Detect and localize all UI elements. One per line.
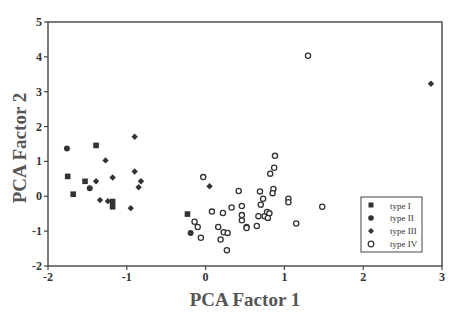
open-circle-point	[220, 210, 225, 215]
y-tick-label: 0	[36, 189, 42, 203]
diamond-point	[102, 157, 108, 163]
square-point	[93, 143, 99, 149]
diamond-point	[97, 197, 103, 203]
y-tick-label: 5	[36, 15, 42, 29]
diamond-point	[128, 205, 134, 211]
y-tick-label: 4	[36, 50, 42, 64]
square-point	[70, 191, 76, 197]
open-circle-point	[239, 213, 244, 218]
x-axis-ticks: -2-10123	[43, 266, 445, 284]
open-circle-point	[305, 53, 310, 58]
square-marker-icon	[369, 203, 374, 208]
filled-circle-marker-icon	[368, 215, 374, 221]
diamond-point	[131, 168, 137, 174]
open-circle-point	[244, 225, 249, 230]
square-point	[110, 204, 116, 210]
open-circle-point	[224, 248, 229, 253]
open-circle-point	[272, 165, 277, 170]
x-tick-label: 2	[360, 270, 366, 284]
filled-circle-point	[87, 185, 93, 191]
open-circle-point	[265, 215, 270, 220]
legend-label: type II	[390, 213, 414, 223]
legend-label: type IV	[390, 239, 418, 249]
y-axis-title: PCA Factor 2	[9, 93, 30, 203]
open-circle-point	[261, 196, 266, 201]
open-circle-point	[201, 175, 206, 180]
legend: type I type II type III type IV	[361, 197, 422, 252]
open-circle-point	[286, 200, 291, 205]
diamond-point	[138, 178, 144, 184]
x-tick-label: 1	[281, 270, 287, 284]
legend-label: type I	[390, 201, 411, 211]
open-circle-point	[236, 188, 241, 193]
open-circle-point	[257, 189, 262, 194]
x-axis-title: PCA Factor 1	[190, 289, 300, 310]
open-circle-point	[216, 224, 221, 229]
diamond-point	[135, 184, 141, 190]
x-tick-label: 3	[439, 270, 445, 284]
y-axis-ticks: -2-1012345	[32, 15, 48, 273]
y-tick-label: 2	[36, 120, 42, 134]
open-circle-point	[218, 237, 223, 242]
diamond-point	[93, 178, 99, 184]
open-circle-point	[229, 205, 234, 210]
diamond-point	[206, 183, 212, 189]
scatter-chart: -2-10123 -2-1012345 PCA Factor 1 PCA Fac…	[0, 0, 457, 321]
open-circle-point	[272, 153, 277, 158]
square-point	[65, 174, 71, 180]
diamond-point	[428, 80, 434, 86]
open-circle-point	[254, 223, 259, 228]
open-circle-point	[239, 218, 244, 223]
open-circle-point	[195, 224, 200, 229]
open-circle-marker-icon	[368, 241, 374, 247]
x-tick-label: 0	[203, 270, 209, 284]
open-circle-point	[239, 203, 244, 208]
y-tick-label: -1	[32, 224, 42, 238]
y-tick-label: 3	[36, 85, 42, 99]
open-circle-point	[256, 214, 261, 219]
y-tick-label: 1	[36, 154, 42, 168]
x-tick-label: -2	[43, 270, 53, 284]
open-circle-point	[270, 191, 275, 196]
open-circle-point	[225, 230, 230, 235]
open-circle-point	[294, 221, 299, 226]
x-tick-label: -1	[122, 270, 132, 284]
open-circle-point	[268, 171, 273, 176]
square-point	[185, 211, 191, 217]
filled-circle-point	[188, 230, 194, 236]
filled-circle-point	[64, 146, 70, 152]
open-circle-point	[320, 204, 325, 209]
diamond-point	[109, 174, 115, 180]
open-circle-point	[209, 209, 214, 214]
open-circle-point	[198, 235, 203, 240]
diamond-point	[131, 133, 137, 139]
square-point	[82, 178, 88, 184]
open-circle-point	[192, 219, 197, 224]
legend-label: type III	[390, 226, 417, 236]
open-circle-point	[258, 202, 263, 207]
y-tick-label: -2	[32, 259, 42, 273]
